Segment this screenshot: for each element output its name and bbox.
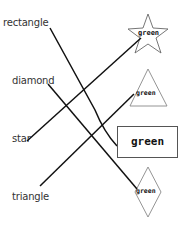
word-triangle: triangle bbox=[12, 191, 49, 203]
match-line-rectangle bbox=[50, 28, 117, 146]
diamond-label: green bbox=[136, 187, 156, 195]
word-diamond: diamond bbox=[12, 75, 54, 87]
rectangle-shape: green bbox=[117, 126, 178, 158]
matching-worksheet: rectangle diamond star triangle green gr… bbox=[0, 0, 188, 227]
star-label: green bbox=[138, 29, 159, 37]
word-rectangle: rectangle bbox=[3, 17, 48, 29]
word-star: star bbox=[12, 133, 31, 145]
triangle-shape bbox=[130, 69, 167, 106]
rectangle-label: green bbox=[118, 127, 177, 157]
triangle-label: green bbox=[136, 89, 156, 97]
